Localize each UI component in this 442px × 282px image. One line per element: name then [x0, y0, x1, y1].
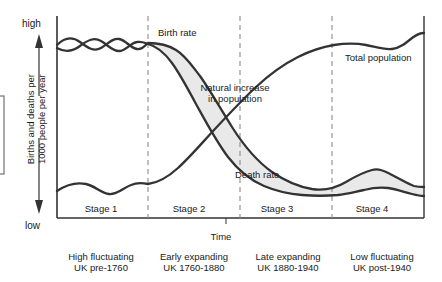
stage-caption-3-line2: UK 1880-1940	[240, 262, 336, 273]
stage-caption-3-line1: Late expanding	[240, 251, 336, 262]
y-axis-title-line1: Births and deaths per	[25, 59, 36, 179]
high-arrow-head	[35, 34, 43, 48]
x-axis-title: Time	[0, 231, 442, 242]
low-arrow-head	[35, 200, 43, 214]
stage-caption-2-line2: UK 1760-1880	[146, 262, 242, 273]
stage-caption-4-line1: Low fluctuating	[334, 251, 430, 262]
stage-name-4: Stage 4	[320, 203, 424, 214]
stage-caption-2-line1: Early expanding	[146, 251, 242, 262]
stage-caption-4: Low fluctuating UK post-1940	[334, 251, 430, 273]
total-population-label: Total population	[345, 52, 412, 63]
stage-caption-3: Late expanding UK 1880-1940	[240, 251, 336, 273]
birth-rate-label: Birth rate	[158, 27, 197, 38]
stage-caption-1-line1: High fluctuating	[54, 251, 148, 262]
y-axis-high-label: high	[22, 18, 41, 30]
stage-name-3: Stage 3	[234, 203, 320, 214]
natural-increase-line2: in population	[175, 93, 295, 104]
stage-caption-4-line2: UK post-1940	[334, 262, 430, 273]
stage-name-1: Stage 1	[58, 203, 144, 214]
death-rate-label: Death rate	[235, 169, 279, 180]
cropped-edge-box	[0, 96, 4, 174]
stage-caption-2: Early expanding UK 1760-1880	[146, 251, 242, 273]
natural-increase-label: Natural increase in population	[175, 82, 295, 104]
stage-caption-1: High fluctuating UK pre-1760	[54, 251, 148, 273]
y-axis-title: Births and deaths per 1000 people per ye…	[25, 59, 47, 179]
stage-name-2: Stage 2	[144, 203, 234, 214]
stage-caption-1-line2: UK pre-1760	[54, 262, 148, 273]
natural-increase-line1: Natural increase	[175, 82, 295, 93]
y-axis-title-line2: 1000 people per year	[36, 59, 47, 179]
